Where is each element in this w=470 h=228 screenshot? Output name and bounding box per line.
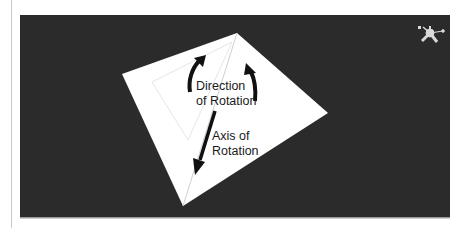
axis-label-line1: Axis of	[212, 129, 259, 144]
direction-label-line2: of Rotation	[196, 94, 256, 109]
rotation-diagram	[0, 0, 470, 228]
direction-of-rotation-label: Direction of Rotation	[196, 79, 256, 109]
direction-label-line1: Direction	[196, 79, 256, 94]
axis-of-rotation-label: Axis of Rotation	[212, 129, 259, 159]
diagram-page: Direction of Rotation Axis of Rotation	[0, 0, 470, 228]
axis-label-line2: Rotation	[212, 144, 259, 159]
